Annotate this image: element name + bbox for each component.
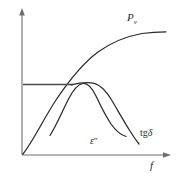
curve-label-epsilon-prime: ″	[94, 136, 98, 146]
x-axis-label: f	[150, 160, 153, 171]
curve-label-pv: Pv	[127, 12, 137, 26]
curve-label-tgdelta-symbol: δ	[148, 127, 153, 138]
curve-label-epsilon: ε″	[90, 136, 98, 146]
curve-label-pv-base: P	[127, 11, 134, 23]
y-axis-arrowhead	[19, 8, 25, 16]
curve-label-pv-subscript: v	[134, 18, 137, 26]
plot-canvas	[0, 0, 180, 179]
curve-label-tgdelta: tgδ	[140, 128, 152, 138]
curve-label-tgdelta-base: tg	[140, 127, 148, 138]
x-axis-arrowhead	[163, 152, 171, 158]
dielectric-loss-figure: Pv tgδ ε″ f	[0, 0, 180, 179]
